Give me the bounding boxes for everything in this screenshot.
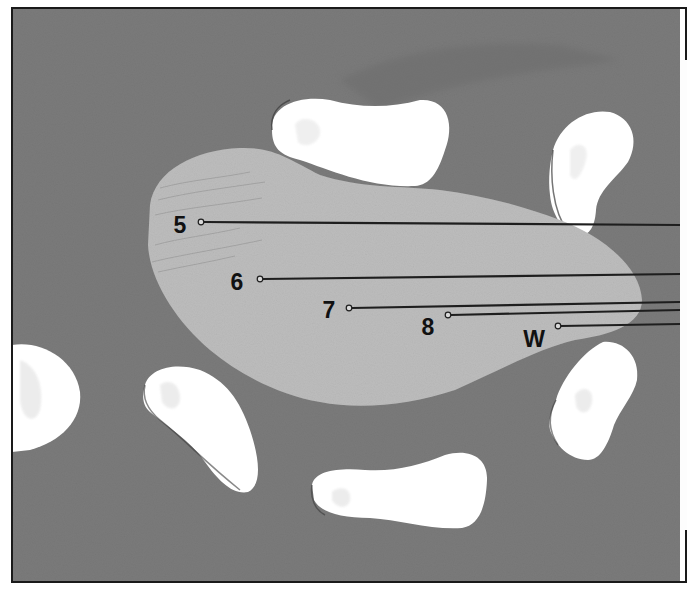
leader-dot-7 — [346, 305, 352, 311]
leader-dot-w — [555, 323, 561, 329]
leader-dot-5 — [198, 219, 204, 225]
leader-dot-8 — [445, 312, 451, 318]
callout-label-8: 8 — [422, 316, 435, 339]
callout-label-w: W — [523, 328, 545, 351]
callout-label-6: 6 — [231, 271, 244, 294]
right-margin — [680, 60, 687, 530]
callout-label-7: 7 — [323, 299, 336, 322]
labeled-illustration — [0, 0, 687, 591]
callout-label-5: 5 — [174, 214, 187, 237]
leader-dot-6 — [257, 276, 263, 282]
